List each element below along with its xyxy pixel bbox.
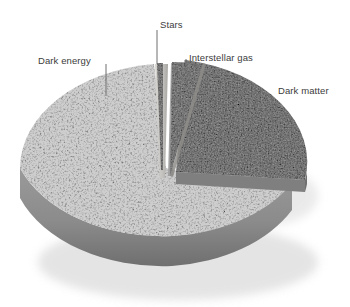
pie-chart-svg — [0, 0, 350, 307]
label-dark-matter: Dark matter — [278, 85, 329, 96]
label-interstellar-gas: Interstellar gas — [189, 52, 253, 63]
label-stars: Stars — [160, 19, 183, 30]
label-dark-energy: Dark energy — [38, 55, 91, 66]
pie-chart-figure: Dark energy Stars Interstellar gas Dark … — [0, 0, 350, 307]
